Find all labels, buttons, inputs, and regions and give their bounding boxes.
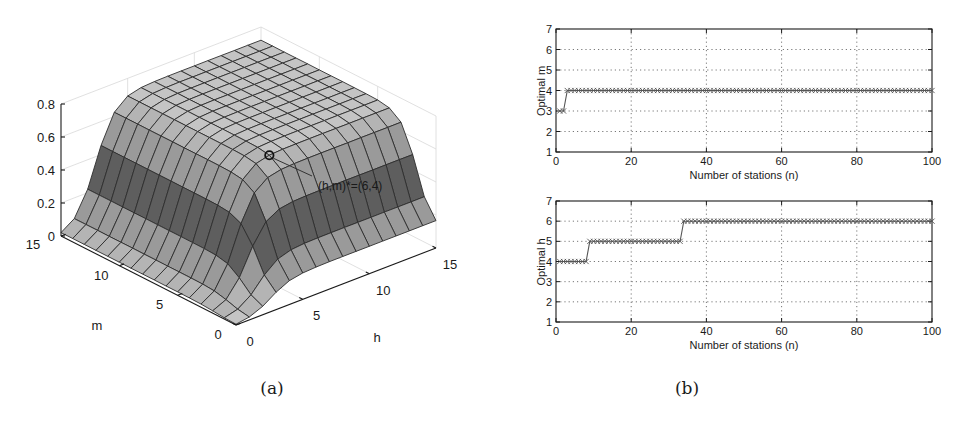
h-tick-label: 0 [246, 334, 253, 349]
series-markers [557, 88, 934, 114]
y-tick-label: 2 [546, 126, 552, 138]
xlabel-top: Number of stations (n) [690, 169, 799, 181]
y-tick-label: 7 [546, 195, 552, 207]
x-tick-label: 20 [625, 325, 637, 337]
x-tick-label: 80 [851, 325, 863, 337]
x-tick-label: 40 [700, 325, 712, 337]
y-tick-label: 2 [546, 296, 552, 308]
optimum-annotation: (h,m)*=(6,4) [318, 179, 382, 193]
ylabel-bottom: Optimal h [535, 238, 547, 285]
y-tick-label: 7 [546, 23, 552, 35]
caption-a: (a) [260, 378, 283, 398]
y-tick-label: 6 [546, 44, 552, 56]
surface-plot: 00.20.40.60.8051015m051015h (h,m)*=(6,4)… [26, 27, 457, 398]
caption-b: (b) [675, 378, 699, 398]
series-line [560, 91, 932, 112]
y-tick-label: 1 [546, 146, 552, 158]
y-tick-label: 1 [546, 316, 552, 328]
xlabel-bottom: Number of stations (n) [690, 339, 799, 351]
ylabel-top: Optimal m [535, 66, 547, 116]
y-tick-label: 6 [546, 215, 552, 227]
x-tick-label: 100 [923, 155, 941, 167]
h-axis-label: h [373, 330, 380, 345]
optimal-h-plot: 0204060801001234567 [546, 195, 941, 337]
x-tick-label: 20 [625, 155, 637, 167]
h-tick-label: 10 [376, 283, 390, 298]
x-tick-label: 40 [700, 155, 712, 167]
h-tick-label: 5 [313, 308, 320, 323]
x-tick-label: 0 [553, 325, 559, 337]
figure: 00.20.40.60.8051015m051015h (h,m)*=(6,4)… [0, 0, 973, 423]
x-tick-label: 100 [923, 325, 941, 337]
m-tick-label: 5 [156, 297, 163, 312]
x-tick-label: 80 [851, 155, 863, 167]
z-tick-label: 0.8 [37, 97, 55, 112]
z-tick-label: 0.6 [37, 130, 55, 145]
m-tick-label: 10 [94, 268, 108, 283]
z-tick-label: 0.2 [37, 196, 55, 211]
x-tick-label: 60 [775, 155, 787, 167]
optimal-m-plot: 0204060801001234567 [546, 23, 941, 167]
m-tick-label: 15 [26, 237, 40, 252]
z-tick-label: 0 [48, 229, 55, 244]
h-tick-label: 15 [443, 257, 457, 272]
x-tick-label: 0 [553, 155, 559, 167]
m-axis-label: m [92, 318, 103, 333]
z-tick-label: 0.4 [37, 163, 55, 178]
x-tick-label: 60 [775, 325, 787, 337]
m-tick-label: 0 [214, 327, 221, 342]
